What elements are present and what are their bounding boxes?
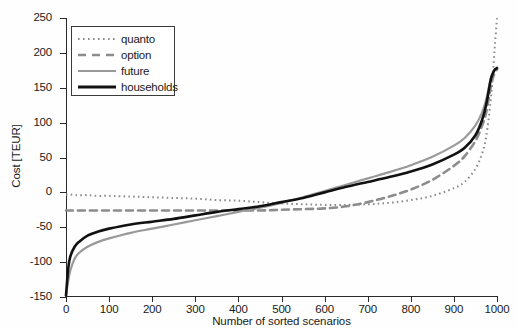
x-tick-label: 100 — [89, 303, 129, 315]
figure: -150-100-50050100150200250 0100200300400… — [0, 0, 518, 328]
legend-label: quanto — [121, 33, 155, 45]
legend-item-households[interactable]: households — [72, 79, 174, 95]
y-tick-label: 0 — [18, 186, 52, 197]
legend-label: households — [121, 81, 178, 93]
y-tick-label: -50 — [18, 221, 52, 232]
y-tick-label: -100 — [18, 256, 52, 267]
legend-swatch-future — [77, 64, 117, 78]
legend-item-future[interactable]: future — [72, 63, 174, 79]
x-tick-label: 900 — [434, 303, 474, 315]
legend-item-quanto[interactable]: quanto — [72, 31, 174, 47]
legend-label: option — [121, 49, 151, 61]
x-axis-label: Number of sorted scenarios — [66, 315, 497, 327]
y-tick-label: 100 — [18, 117, 52, 128]
x-tick-label: 500 — [262, 303, 302, 315]
x-tick-label: 700 — [348, 303, 388, 315]
legend-label: future — [121, 65, 149, 77]
x-tick-label: 200 — [132, 303, 172, 315]
y-tick-label: 50 — [18, 152, 52, 163]
y-tick-label: 250 — [18, 12, 52, 23]
x-tick — [497, 296, 498, 302]
y-tick-label: -150 — [18, 291, 52, 302]
x-tick-label: 800 — [391, 303, 431, 315]
y-tick-label: 150 — [18, 82, 52, 93]
series-line-future — [66, 68, 497, 296]
legend-swatch-quanto — [77, 32, 117, 46]
x-tick-label: 0 — [46, 303, 86, 315]
y-tick-label: 200 — [18, 47, 52, 58]
x-tick-label: 1000 — [477, 303, 517, 315]
x-tick-label: 600 — [305, 303, 345, 315]
legend: quantooptionfuturehouseholds — [71, 26, 175, 96]
x-tick-label: 300 — [175, 303, 215, 315]
series-line-households — [66, 68, 497, 295]
y-axis-label: Cost [TEUR] — [10, 96, 22, 216]
legend-swatch-households — [77, 80, 117, 94]
legend-swatch-option — [77, 48, 117, 62]
legend-item-option[interactable]: option — [72, 47, 174, 63]
x-tick-label: 400 — [218, 303, 258, 315]
